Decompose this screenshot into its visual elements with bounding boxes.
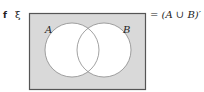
set-b-label: B	[122, 24, 130, 35]
set-a-label: A	[44, 24, 52, 35]
set-expression: = (A ∪ B)′	[150, 9, 201, 21]
